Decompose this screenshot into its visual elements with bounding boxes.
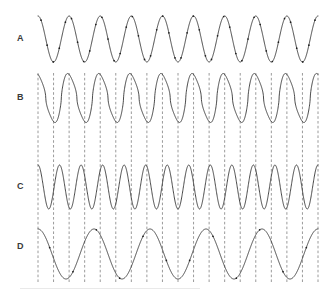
waveform-marker-dot — [253, 16, 255, 18]
row-label-b: B — [17, 93, 24, 102]
waveform-marker-dot — [302, 61, 304, 63]
waveform-marker-dot — [180, 57, 182, 59]
waveform-marker-dot — [52, 61, 54, 63]
waveform-marker-dot — [265, 50, 267, 52]
waveform-marker-dot — [278, 41, 280, 43]
waveform-marker-dot — [223, 16, 225, 18]
waveform-marker-dot — [58, 47, 60, 49]
waveform-marker-dot — [308, 44, 310, 46]
waveform-marker-dot — [132, 16, 134, 18]
waveform-marker-dot — [247, 38, 249, 40]
row-label-d: D — [17, 242, 24, 251]
waveform-marker-dot — [212, 235, 214, 237]
waveform-marker-dot — [49, 247, 51, 249]
waveform-marker-dot — [186, 32, 188, 34]
waveform-marker-dot — [119, 53, 121, 55]
waveform-marker-dot — [235, 53, 237, 55]
waveform-plot-area — [0, 0, 328, 293]
waveform-marker-dot — [174, 57, 176, 59]
waveform-marker-dot — [125, 26, 127, 28]
waveform-marker-dot — [95, 229, 97, 231]
waveform-marker-dot — [165, 260, 167, 262]
waveform-marker-dot — [142, 235, 144, 237]
waveform-marker-dot — [150, 55, 152, 57]
waveform-marker-dot — [314, 19, 316, 21]
waveform-marker-dot — [107, 38, 109, 40]
waveform-marker-dot — [305, 247, 307, 249]
waveform-marker-dot — [211, 59, 213, 61]
waveform-marker-dot — [205, 55, 207, 57]
waveform-marker-dot — [296, 47, 298, 49]
waveform-marker-dot — [162, 15, 164, 17]
waveform-marker-dot — [65, 21, 67, 23]
waveform-marker-dot — [71, 18, 73, 20]
waveform-marker-dot — [198, 29, 200, 31]
waveform-marker-dot — [259, 229, 261, 231]
waveform-marker-dot — [119, 277, 121, 279]
waveform-marker-dot — [229, 26, 231, 28]
waveform-marker-dot — [272, 61, 274, 63]
waveform-marker-dot — [95, 24, 97, 26]
waveform-marker-dot — [101, 16, 103, 18]
waveform-marker-dot — [138, 35, 140, 37]
waveform-marker-dot — [168, 32, 170, 34]
waveform-marker-dot — [235, 277, 237, 279]
waveform-marker-dot — [72, 271, 74, 273]
waveform-marker-dot — [284, 18, 286, 20]
waveform-marker-dot — [189, 260, 191, 262]
waveform-marker-dot — [89, 50, 91, 52]
waveform-marker-dot — [144, 59, 146, 61]
waveform-marker-dot — [46, 44, 48, 46]
waveform-marker-dot — [77, 41, 79, 43]
waveform-marker-dot — [40, 19, 42, 21]
waveform-marker-dot — [192, 15, 194, 17]
row-label-a: A — [17, 34, 24, 43]
waveform-marker-dot — [241, 60, 243, 62]
waveform-marker-dot — [156, 29, 158, 31]
waveform-marker-dot — [259, 24, 261, 26]
waveform-figure: A B C D — [0, 0, 328, 293]
waveform-marker-dot — [217, 35, 219, 37]
waveform-marker-dot — [113, 60, 115, 62]
waveform-marker-dot — [290, 21, 292, 23]
waveform-marker-dot — [282, 271, 284, 273]
guide-lines-group — [38, 73, 318, 283]
waveform-trace-a — [38, 16, 318, 62]
row-label-c: C — [17, 182, 24, 191]
waveform-marker-dot — [83, 61, 85, 63]
